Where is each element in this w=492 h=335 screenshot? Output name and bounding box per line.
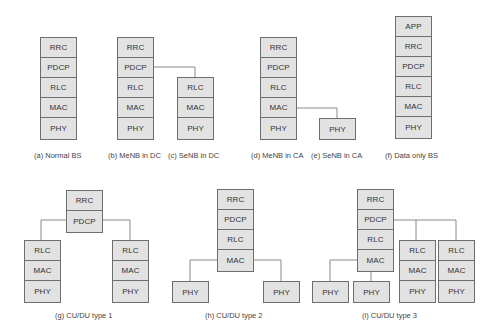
- du-right-type1: RLC MAC PHY: [112, 240, 149, 303]
- layer-rlc: RLC: [400, 241, 435, 261]
- layer-mac: MAC: [396, 97, 431, 117]
- layer-phy: PHY: [178, 118, 213, 139]
- layer-mac: MAC: [261, 98, 296, 118]
- layer-rlc: RLC: [358, 230, 393, 250]
- layer-mac: MAC: [113, 261, 148, 281]
- caption-g: (g) CU/DU type 1: [55, 311, 113, 320]
- layer-rrc: RRC: [396, 37, 431, 57]
- layer-rrc: RRC: [41, 38, 76, 58]
- stack-menb-dc: RRC PDCP RLC MAC PHY: [117, 37, 154, 140]
- stack-senb-dc: RLC MAC PHY: [177, 77, 214, 140]
- layer-phy: PHY: [118, 118, 153, 139]
- du2-type3: RLC MAC PHY: [438, 240, 475, 303]
- layer-rlc: RLC: [218, 230, 253, 250]
- caption-f: (f) Data only BS: [385, 151, 438, 160]
- layer-pdcp: PDCP: [218, 210, 253, 230]
- layer-rrc: RRC: [67, 191, 102, 211]
- layer-rrc: RRC: [261, 38, 296, 58]
- layer-pdcp: PDCP: [261, 58, 296, 78]
- layer-rlc: RLC: [261, 78, 296, 98]
- stack-senb-ca: PHY: [319, 118, 356, 140]
- layer-phy: PHY: [313, 282, 348, 302]
- layer-phy: PHY: [25, 281, 60, 302]
- cu-type1: RRC PDCP: [66, 190, 103, 233]
- stack-data-only-bs: APP RRC PDCP RLC MAC PHY: [395, 16, 432, 139]
- phy2-type3: PHY: [353, 281, 390, 303]
- layer-phy: PHY: [113, 281, 148, 302]
- layer-rlc: RLC: [439, 241, 474, 261]
- layer-pdcp: PDCP: [396, 57, 431, 77]
- layer-phy: PHY: [173, 282, 208, 302]
- layer-rrc: RRC: [358, 190, 393, 210]
- layer-rlc: RLC: [396, 77, 431, 97]
- caption-c: (c) SeNB in DC: [168, 151, 219, 160]
- layer-rlc: RLC: [41, 78, 76, 98]
- layer-phy: PHY: [439, 281, 474, 302]
- du-left-type1: RLC MAC PHY: [24, 240, 61, 303]
- stack-normal-bs: RRC PDCP RLC MAC PHY: [40, 37, 77, 140]
- layer-pdcp: PDCP: [358, 210, 393, 230]
- layer-mac: MAC: [118, 98, 153, 118]
- layer-mac: MAC: [25, 261, 60, 281]
- caption-h: (h) CU/DU type 2: [205, 311, 263, 320]
- layer-mac: MAC: [41, 98, 76, 118]
- cu-type2: RRC PDCP RLC MAC: [217, 189, 254, 272]
- phy1-type3: PHY: [312, 281, 349, 303]
- du1-type3: RLC MAC PHY: [399, 240, 436, 303]
- caption-b: (b) MeNB in DC: [108, 151, 161, 160]
- caption-d: (d) MeNB in CA: [251, 151, 304, 160]
- layer-phy: PHY: [264, 282, 299, 302]
- cu-type3: RRC PDCP RLC MAC: [357, 189, 394, 272]
- layer-rlc: RLC: [25, 241, 60, 261]
- caption-a: (a) Normal BS: [34, 151, 82, 160]
- caption-i: (i) CU/DU type 3: [362, 311, 417, 320]
- layer-mac: MAC: [439, 261, 474, 281]
- layer-phy: PHY: [396, 117, 431, 138]
- layer-mac: MAC: [358, 250, 393, 271]
- layer-rlc: RLC: [118, 78, 153, 98]
- layer-pdcp: PDCP: [41, 58, 76, 78]
- layer-phy: PHY: [354, 282, 389, 302]
- layer-rrc: RRC: [218, 190, 253, 210]
- stack-menb-ca: RRC PDCP RLC MAC PHY: [260, 37, 297, 140]
- du-right-type2: PHY: [263, 281, 300, 303]
- layer-pdcp: PDCP: [67, 211, 102, 232]
- layer-mac: MAC: [218, 250, 253, 271]
- layer-pdcp: PDCP: [118, 58, 153, 78]
- layer-rlc: RLC: [113, 241, 148, 261]
- layer-phy: PHY: [261, 118, 296, 139]
- layer-phy: PHY: [320, 119, 355, 139]
- du-left-type2: PHY: [172, 281, 209, 303]
- layer-phy: PHY: [41, 118, 76, 139]
- layer-rrc: RRC: [118, 38, 153, 58]
- caption-e: (e) SeNB in CA: [311, 151, 362, 160]
- layer-app: APP: [396, 17, 431, 37]
- layer-mac: MAC: [178, 98, 213, 118]
- layer-mac: MAC: [400, 261, 435, 281]
- layer-phy: PHY: [400, 281, 435, 302]
- layer-rlc: RLC: [178, 78, 213, 98]
